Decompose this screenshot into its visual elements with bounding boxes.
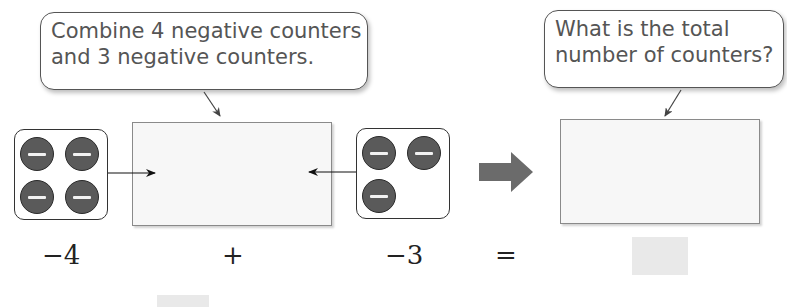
plus-operator: +	[222, 240, 244, 270]
answer-box-small	[157, 295, 209, 307]
term-negative-3: −3	[385, 240, 423, 270]
term-negative-4: −4	[42, 240, 80, 270]
block-arrow-right-icon	[479, 152, 533, 192]
callout-total-pointer	[665, 90, 681, 116]
answer-box	[632, 237, 688, 275]
equals-sign: =	[495, 240, 517, 270]
callout-combine-pointer	[204, 92, 220, 116]
